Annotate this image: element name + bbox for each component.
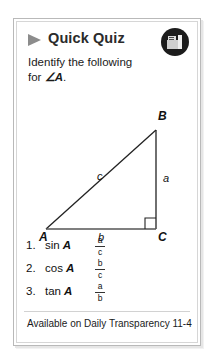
list-item[interactable]: 1. sinA a c: [17, 236, 197, 259]
list-item[interactable]: 2. cosA b c: [17, 259, 197, 282]
fraction-denominator: c: [94, 248, 106, 257]
item-function-name: sin: [45, 239, 60, 251]
prompt-line-2-prefix: for: [28, 71, 45, 83]
item-angle-label: A: [66, 262, 74, 274]
quick-quiz-card: Quick Quiz Identify the following for ∠A…: [13, 18, 201, 346]
item-function-name: tan: [45, 285, 61, 297]
item-number: 1.: [26, 239, 36, 251]
item-expression: sinA: [45, 239, 71, 251]
item-number: 3.: [26, 285, 36, 297]
card-header: Quick Quiz: [17, 22, 197, 56]
prompt-line-1: Identify the following: [28, 56, 132, 68]
fraction-denominator: b: [94, 294, 106, 303]
item-expression: cosA: [45, 262, 74, 274]
play-triangle-icon: [28, 34, 41, 46]
vertex-label-b: B: [158, 109, 167, 123]
item-fraction: a b: [94, 282, 106, 303]
list-item[interactable]: 3. tanA a b: [17, 282, 197, 305]
item-number: 2.: [26, 262, 36, 274]
right-angle-marker: [145, 218, 156, 229]
side-label-c: c: [97, 170, 103, 182]
page-title: Quick Quiz: [48, 30, 125, 46]
book-icon: [161, 28, 189, 56]
book-spine-shape: [178, 35, 182, 49]
book-text-line-1: [169, 37, 174, 38]
triangle-svg: [17, 84, 201, 239]
prompt-angle-label: ∠A: [45, 71, 63, 83]
item-angle-label: A: [63, 239, 71, 251]
item-angle-label: A: [64, 285, 72, 297]
footer-divider: [24, 311, 190, 312]
fraction-numerator: a: [94, 236, 106, 245]
item-expression: tanA: [45, 285, 72, 297]
fraction-numerator: a: [94, 282, 106, 291]
quiz-prompt: Identify the following for ∠A.: [28, 55, 178, 84]
item-fraction: a c: [94, 236, 106, 257]
quiz-item-list: 1. sinA a c 2. cosA b c 3. tanA: [17, 236, 197, 305]
item-function-name: cos: [45, 262, 63, 274]
triangle-figure: B A C c a b: [17, 84, 197, 239]
prompt-line-2-suffix: .: [63, 71, 66, 83]
footer-note: Available on Daily Transparency 11-4: [27, 318, 192, 329]
fraction-numerator: b: [94, 259, 106, 268]
side-label-a: a: [163, 172, 169, 184]
fraction-denominator: c: [94, 271, 106, 280]
card-inner-frame: Quick Quiz Identify the following for ∠A…: [16, 21, 198, 343]
item-fraction: b c: [94, 259, 106, 280]
